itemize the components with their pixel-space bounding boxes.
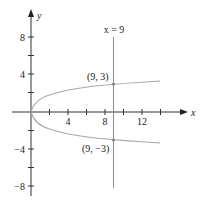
x-tick-label-4: 4	[66, 116, 71, 127]
chart: 4 8 12 x 8 4 −4 −8 y x = 9 (9, 3) (9, −3…	[0, 0, 204, 203]
point-upper	[112, 82, 115, 85]
vertical-line-label: x = 9	[104, 24, 125, 35]
x-axis-label: x	[190, 107, 196, 118]
point-lower	[112, 138, 115, 141]
y-tick-label-8: 8	[20, 32, 25, 43]
y-axis-arrow-icon	[28, 9, 34, 17]
y-axis: 8 4 −4 −8 y	[14, 9, 42, 196]
y-tick-label-neg8: −8	[14, 181, 25, 192]
point-lower-label: (9, −3)	[82, 143, 109, 155]
y-tick-label-neg4: −4	[14, 144, 25, 155]
y-tick-label-4: 4	[20, 69, 25, 80]
point-upper-label: (9, 3)	[87, 71, 109, 83]
x-axis-arrow-icon	[180, 109, 188, 115]
x-tick-label-12: 12	[137, 116, 147, 127]
y-axis-label: y	[36, 10, 42, 21]
upper-curve	[31, 81, 160, 112]
x-tick-label-8: 8	[103, 116, 108, 127]
